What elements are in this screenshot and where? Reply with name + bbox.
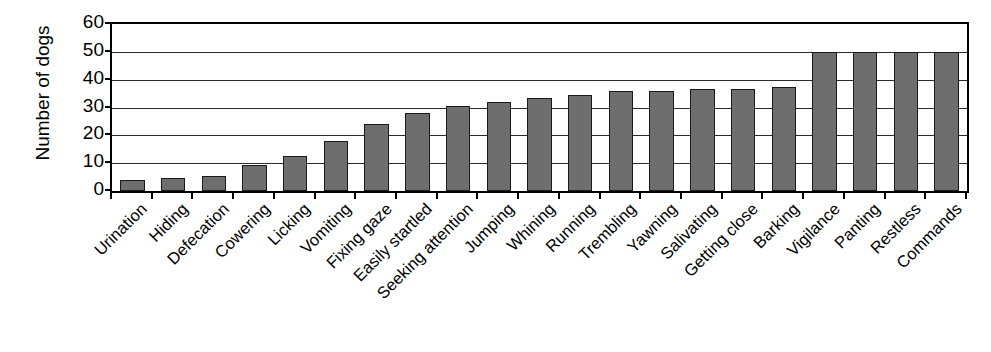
bar	[324, 141, 348, 191]
x-tick-mark	[761, 191, 763, 199]
bar	[120, 180, 144, 191]
bar	[446, 106, 470, 191]
bar	[487, 102, 511, 191]
x-axis-ticks	[110, 191, 965, 199]
x-label-wrapper: Urination	[92, 200, 151, 259]
bar	[527, 98, 551, 191]
x-tick-label: Urination	[92, 200, 151, 259]
bar	[283, 156, 307, 191]
y-tick-label: 20	[64, 123, 104, 142]
x-tick-mark	[721, 191, 723, 199]
y-tick-label: 50	[64, 40, 104, 59]
y-tick-label: 10	[64, 151, 104, 170]
x-tick-mark	[395, 191, 397, 199]
x-tick-mark	[802, 191, 804, 199]
x-tick-mark	[680, 191, 682, 199]
bar	[934, 52, 958, 191]
y-axis-title: Number of dogs	[32, 3, 54, 183]
x-tick-mark	[599, 191, 601, 199]
y-tick-label: 40	[64, 68, 104, 87]
x-tick-mark	[924, 191, 926, 199]
bar	[812, 52, 836, 191]
bar-chart: Number of dogs 0102030405060 UrinationHi…	[0, 0, 991, 352]
x-tick-mark	[517, 191, 519, 199]
x-tick-mark	[965, 191, 967, 199]
bar	[161, 178, 185, 191]
y-tick-label: 60	[64, 12, 104, 31]
bar	[242, 165, 266, 191]
y-tick-label: 0	[64, 179, 104, 198]
x-tick-mark	[110, 191, 112, 199]
bar	[405, 113, 429, 191]
x-tick-mark	[354, 191, 356, 199]
bar	[690, 89, 714, 191]
x-axis-labels: UrinationHidingDefecationCoweringLicking…	[110, 200, 965, 350]
bar	[853, 52, 877, 191]
x-tick-mark	[232, 191, 234, 199]
plot-area	[110, 22, 969, 193]
bar	[649, 91, 673, 191]
bar	[731, 89, 755, 191]
y-axis-ticks: 0102030405060	[58, 22, 104, 189]
bar	[202, 176, 226, 191]
x-tick-mark	[191, 191, 193, 199]
bar	[364, 124, 388, 191]
x-tick-mark	[476, 191, 478, 199]
bars-layer	[112, 24, 967, 191]
y-tick-label: 30	[64, 96, 104, 115]
bar	[772, 87, 796, 191]
bar	[894, 52, 918, 191]
x-tick-mark	[639, 191, 641, 199]
x-tick-mark	[843, 191, 845, 199]
bar	[609, 91, 633, 191]
x-tick-mark	[314, 191, 316, 199]
x-tick-mark	[436, 191, 438, 199]
x-tick-mark	[884, 191, 886, 199]
bar	[568, 95, 592, 191]
x-tick-mark	[273, 191, 275, 199]
x-tick-mark	[151, 191, 153, 199]
x-tick-mark	[558, 191, 560, 199]
